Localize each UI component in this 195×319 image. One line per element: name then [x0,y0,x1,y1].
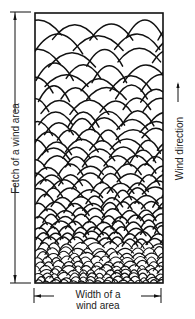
wave-crest [89,284,101,289]
wave-crest [162,62,195,74]
wave-crest [169,260,179,265]
wave-crest [164,280,176,285]
wave-crest [149,287,160,291]
wave-crest [171,77,194,93]
wave-crest [166,215,188,222]
wave-diagram [0,0,194,319]
wave-crest [33,34,82,54]
wave-crest [145,284,156,288]
wave-crest [166,228,181,236]
wave-crest [49,53,96,67]
width-label: Width of a wind area [50,289,146,311]
wave-crest [163,249,179,256]
wave-crest [164,88,194,99]
wave-crest [158,202,175,209]
wave-crest [63,284,73,288]
wave-crest [141,89,172,102]
wave-crest [141,74,182,91]
wave-crests [16,20,194,292]
wave-crest [146,274,157,279]
wave-crest [39,287,50,290]
wave-crest [38,148,70,159]
wave-crest [16,20,62,35]
wave-crest [171,203,192,210]
wave-crest [99,284,109,288]
wind-direction-arrow-icon [176,82,179,102]
wave-crest [140,121,172,132]
wave-crest [107,283,118,287]
width-label-line-2: wind area [50,300,146,311]
wave-crest [167,197,186,205]
wave-crest [164,273,175,277]
wave-crest [153,208,176,214]
wave-crest [168,220,184,226]
wave-crest [172,209,194,218]
wave-crest [164,284,174,288]
wave-crest [168,277,179,281]
wave-crest [35,284,47,288]
wave-crest [153,50,187,63]
wave-crest [166,270,179,275]
wave-crest [86,196,104,204]
wave-crest [181,49,194,68]
wave-crest [70,284,81,288]
wave-crest [158,288,169,291]
wave-crest [44,285,54,289]
wave-crest [70,100,109,114]
wave-crest [115,34,160,49]
wave-crest [115,284,124,287]
wave-crest [38,243,51,250]
wave-crest [87,243,105,248]
width-label-line-1: Width of a [50,289,146,300]
wind-direction-label: Wind direction [174,109,185,189]
wave-crest [156,37,194,52]
fetch-label: Fetch of a wind area [10,94,21,204]
wave-crest [87,88,127,100]
wave-crest [167,257,182,262]
wave-crest [100,101,131,112]
wave-crest [61,88,90,99]
wave-crest [163,265,174,270]
wave-crest [116,85,148,99]
wave-crest [155,274,166,278]
wave-crest [166,253,182,258]
wave-crest [163,244,179,249]
wave-crest [92,66,127,83]
wave-crest [162,188,184,197]
wave-crest [163,232,179,238]
wave-crest [52,284,63,287]
wave-crest [110,76,152,91]
wave-crest [117,174,144,182]
wave-crest [143,98,178,111]
